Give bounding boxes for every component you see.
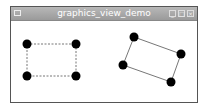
drag-handle[interactable] [167, 78, 176, 87]
right-rect-outline [123, 37, 181, 82]
drag-handle[interactable] [177, 50, 186, 59]
right-rect-item[interactable] [119, 33, 186, 87]
left-rect-outline [27, 44, 76, 76]
drag-handle[interactable] [130, 33, 139, 42]
drag-handle[interactable] [72, 72, 81, 81]
drag-handle[interactable] [23, 40, 32, 49]
drag-handle[interactable] [23, 72, 32, 81]
drag-handle[interactable] [72, 40, 81, 49]
left-rect-item[interactable] [23, 40, 81, 81]
drag-handle[interactable] [119, 61, 128, 70]
scene-canvas [0, 0, 211, 110]
